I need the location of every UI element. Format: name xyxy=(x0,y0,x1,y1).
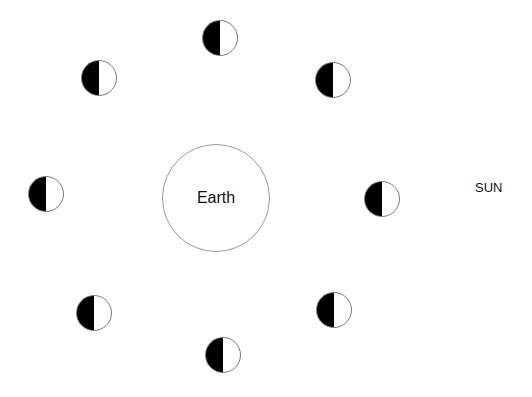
sun-label: SUN xyxy=(475,180,502,195)
moon-top xyxy=(202,20,238,56)
earth-circle: Earth xyxy=(162,144,270,252)
moon-right xyxy=(364,181,400,217)
earth-label: Earth xyxy=(197,189,235,207)
moon-lower-right xyxy=(316,292,352,328)
moon-left xyxy=(28,176,64,212)
moon-upper-right xyxy=(315,62,351,98)
moon-upper-left xyxy=(81,60,117,96)
moon-lower-left xyxy=(76,295,112,331)
moon-bottom xyxy=(205,337,241,373)
